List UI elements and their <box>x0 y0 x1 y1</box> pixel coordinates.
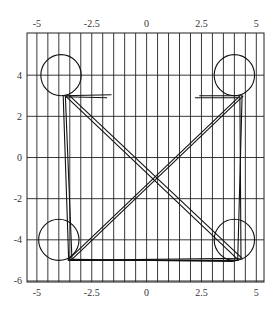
y-tick-label: -4 <box>14 234 22 245</box>
x-tick-label-top: -2.5 <box>84 18 100 29</box>
x-tick-label-top: 0 <box>144 18 149 29</box>
x-tick-label-bottom: -2.5 <box>84 287 100 298</box>
x-tick-label-bottom: -5 <box>33 287 41 298</box>
x-tick-label-bottom: 5 <box>254 287 259 298</box>
x-tick-label-top: 5 <box>254 18 259 29</box>
y-tick-label: -6 <box>14 275 22 286</box>
x-tick-label-top: 2.5 <box>195 18 208 29</box>
x-tick-label-top: -5 <box>33 18 41 29</box>
y-tick-label: -2 <box>14 193 22 204</box>
x-tick-label-bottom: 0 <box>144 287 149 298</box>
grid-lines <box>27 33 264 282</box>
y-tick-label: 2 <box>17 111 22 122</box>
y-tick-label: 0 <box>17 152 22 163</box>
x-tick-label-bottom: 2.5 <box>195 287 208 298</box>
y-tick-label: 4 <box>17 70 22 81</box>
chart-canvas: -5-5-2.5-2.5002.52.555420-2-4-6 <box>0 0 279 317</box>
